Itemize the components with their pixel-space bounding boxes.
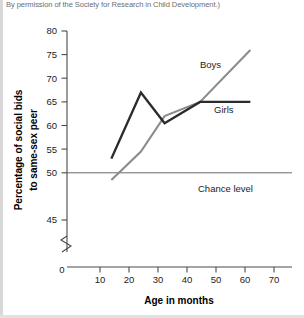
chance-level-label: Chance level	[198, 183, 253, 194]
series-label-girls: Girls	[214, 104, 234, 115]
x-tick-label-30: 30	[153, 274, 164, 285]
y-tick-label-65: 65	[46, 96, 57, 107]
y-axis-title-line1: Percentage of social bids	[13, 89, 24, 210]
x-tick-label-40: 40	[182, 274, 193, 285]
x-tick-label-50: 50	[211, 274, 222, 285]
y-tick-label-45: 45	[46, 214, 57, 225]
y-tick-label-70: 70	[46, 73, 57, 84]
x-tick-label-20: 20	[124, 274, 135, 285]
line-chart: 80 75 70 65 60 55 50 45 0 10 20 30 40 50…	[0, 0, 304, 318]
y-axis-title-line2: to same-sex peer	[28, 109, 39, 191]
y-tick-label-60: 60	[46, 120, 57, 131]
y-tick-label-55: 55	[46, 144, 57, 155]
figure-container: By permission of the Society for Researc…	[0, 0, 304, 318]
x-axis-title: Age in months	[144, 295, 214, 306]
x-tick-label-70: 70	[269, 274, 280, 285]
x-tick-label-0: 0	[59, 264, 64, 275]
y-tick-label-80: 80	[46, 25, 57, 36]
x-tick-marks	[100, 267, 274, 273]
x-tick-label-60: 60	[240, 274, 251, 285]
series-label-boys: Boys	[200, 59, 221, 70]
y-tick-marks	[62, 31, 68, 220]
x-tick-label-10: 10	[95, 274, 106, 285]
y-axis-break-icon	[61, 236, 71, 252]
y-tick-label-75: 75	[46, 49, 57, 60]
y-tick-label-50: 50	[46, 167, 57, 178]
series-line-girls	[111, 92, 250, 158]
